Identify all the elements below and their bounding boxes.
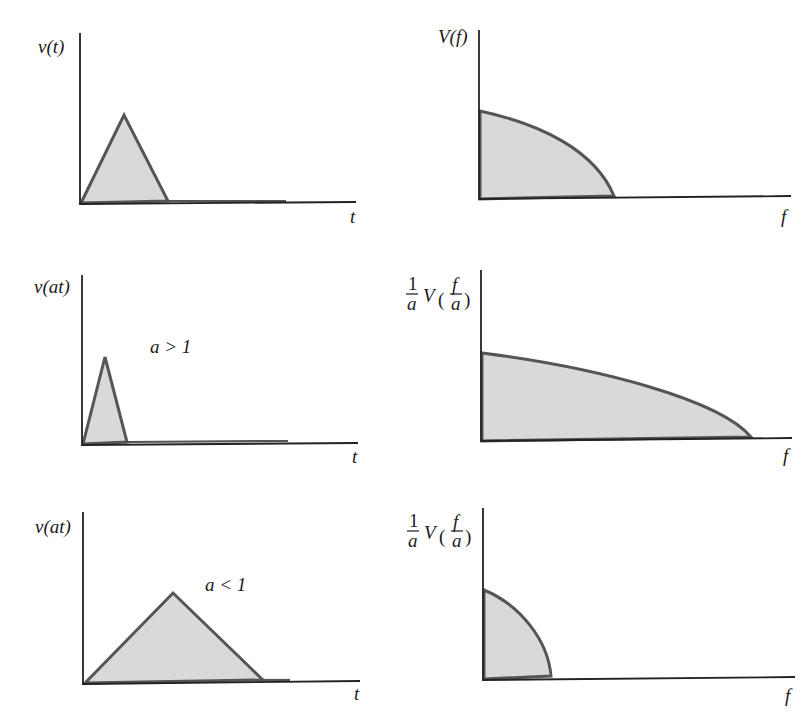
x-axis-label: f — [783, 445, 791, 466]
x-axis-label: t — [352, 446, 358, 467]
fraction-numerator: 1 — [408, 273, 418, 294]
paren-open: ( — [439, 526, 445, 548]
narrow-spectrum-curve — [484, 590, 551, 679]
spectrum-curve — [480, 111, 614, 199]
fraction-denominator: a — [408, 530, 418, 551]
y-axis-label: 1 a V ( f a ) — [407, 510, 471, 551]
arg-numerator: f — [453, 511, 461, 532]
signal-tail — [127, 441, 288, 442]
function-name: V — [424, 522, 438, 543]
x-axis-label: t — [354, 683, 360, 704]
y-axis-label: v(t) — [38, 36, 64, 58]
triangle-pulse — [81, 115, 168, 203]
panel-freq-original: V(f) f — [438, 26, 791, 227]
y-axis-label: v(at) — [35, 516, 71, 538]
y-axis-label: v(at) — [34, 276, 70, 298]
scale-annotation: a > 1 — [150, 336, 191, 357]
narrow-triangle-pulse — [83, 357, 127, 444]
y-axis-label: V(f) — [438, 26, 468, 48]
panel-time-compressed: v(at) t a > 1 — [34, 275, 358, 467]
panel-freq-compressed: 1 a V ( f a ) f — [407, 508, 795, 706]
panel-time-expanded: v(at) t a < 1 — [35, 512, 360, 704]
paren-close: ) — [465, 526, 471, 548]
arg-numerator: f — [452, 274, 460, 295]
function-name: V — [423, 285, 437, 306]
x-axis-label: f — [781, 206, 789, 227]
panel-freq-expanded: 1 a V ( f a ) f — [406, 270, 792, 466]
fraction-denominator: a — [407, 293, 417, 314]
scale-annotation: a < 1 — [205, 574, 246, 595]
y-axis-label: 1 a V ( f a ) — [406, 273, 470, 314]
paren-open: ( — [438, 289, 444, 311]
wide-spectrum-curve — [482, 353, 751, 441]
fraction-numerator: 1 — [409, 510, 419, 531]
paren-close: ) — [464, 289, 470, 311]
wide-triangle-pulse — [85, 593, 263, 683]
x-axis-label: t — [350, 206, 356, 227]
arg-denominator: a — [451, 293, 461, 314]
arg-denominator: a — [452, 530, 462, 551]
x-axis-label: f — [785, 685, 793, 706]
time-scaling-figure: v(t) t V(f) f v(at) t a > 1 1 a V ( f a — [0, 0, 811, 724]
panel-time-original: v(t) t — [38, 33, 356, 227]
